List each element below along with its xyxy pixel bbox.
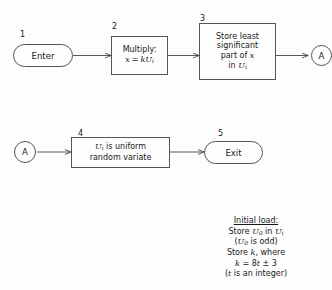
note-line-1-ui-subscript: i bbox=[282, 230, 284, 236]
note-line-3-store: Store bbox=[227, 248, 248, 257]
node-store-line2: significant bbox=[217, 41, 258, 51]
node-exit-label: Exit bbox=[225, 148, 241, 158]
step-number-5: 5 bbox=[218, 129, 223, 138]
node-store-line3-var-x: x bbox=[250, 51, 255, 60]
note-line-1-u0: U bbox=[252, 227, 259, 236]
formula-x: x bbox=[125, 55, 130, 64]
note-line-1-ui: U bbox=[275, 227, 282, 236]
note-line-4-t: t bbox=[257, 259, 260, 268]
node-uniform-random-variate[interactable]: Ui is uniform random variate bbox=[71, 137, 170, 168]
formula-equals: = bbox=[132, 55, 139, 64]
node-exit[interactable]: Exit bbox=[204, 141, 263, 164]
node-uniform-subscript: i bbox=[102, 146, 104, 152]
node-uniform-line2: random variate bbox=[90, 153, 152, 163]
note-line-4-equals: = 8 bbox=[242, 259, 256, 268]
connector-a-out[interactable]: A bbox=[311, 45, 332, 66]
step-number-2: 2 bbox=[112, 22, 117, 31]
note-line-3-where: , where bbox=[255, 248, 285, 257]
step-number-3: 3 bbox=[200, 14, 205, 23]
node-store-line4-subscript: i bbox=[245, 64, 247, 70]
node-enter-label: Enter bbox=[32, 51, 55, 61]
note-line-5: (t is an integer) bbox=[188, 269, 324, 280]
note-title: Initial load: bbox=[188, 216, 324, 227]
node-store-line3-text: part of bbox=[221, 51, 248, 60]
node-multiply-formula: x=kUi bbox=[125, 55, 154, 65]
note-line-4-plusminus: ± 3 bbox=[263, 259, 277, 268]
note-line-4: k = 8t ± 3 bbox=[188, 259, 324, 270]
connector-a-in[interactable]: A bbox=[14, 141, 36, 163]
node-store-line4: in Ui bbox=[228, 61, 246, 71]
note-line-4-k: k bbox=[235, 259, 240, 268]
note-line-5-text: is an integer) bbox=[234, 269, 287, 278]
note-line-2: (U0 is odd) bbox=[188, 237, 324, 248]
node-store-least-significant[interactable]: Store least significant part of x in Ui bbox=[199, 23, 276, 80]
note-line-1: Store U0 in Ui bbox=[188, 227, 324, 238]
node-multiply-line1: Multiply: bbox=[123, 45, 157, 55]
step-number-1: 1 bbox=[20, 30, 25, 39]
formula-u: U bbox=[145, 55, 152, 64]
note-line-5-t: t bbox=[228, 269, 231, 278]
note-line-1-u0-subscript: 0 bbox=[259, 230, 263, 236]
connector-a-in-label: A bbox=[22, 147, 28, 157]
node-multiply[interactable]: Multiply: x=kUi bbox=[111, 36, 168, 75]
connector-a-out-label: A bbox=[319, 51, 325, 61]
initial-load-note: Initial load: Store U0 in Ui (U0 is odd)… bbox=[188, 216, 324, 280]
node-store-line1: Store least bbox=[216, 32, 259, 42]
node-uniform-line1: Ui is uniform bbox=[95, 142, 146, 152]
node-uniform-line1-text: is uniform bbox=[106, 142, 146, 151]
node-store-line4-var-u: U bbox=[238, 61, 245, 70]
note-line-2-text: is odd) bbox=[250, 237, 277, 246]
node-uniform-var-u: U bbox=[95, 142, 102, 151]
note-line-3: Store k, where bbox=[188, 248, 324, 259]
node-enter[interactable]: Enter bbox=[13, 44, 73, 67]
formula-u-subscript: i bbox=[152, 58, 154, 64]
note-line-1-store: Store bbox=[228, 227, 249, 236]
node-store-line4-text: in bbox=[228, 61, 235, 70]
note-line-1-in: in bbox=[265, 227, 272, 236]
node-store-line3: part of x bbox=[221, 51, 255, 61]
note-line-2-u0-subscript: 0 bbox=[244, 241, 248, 247]
